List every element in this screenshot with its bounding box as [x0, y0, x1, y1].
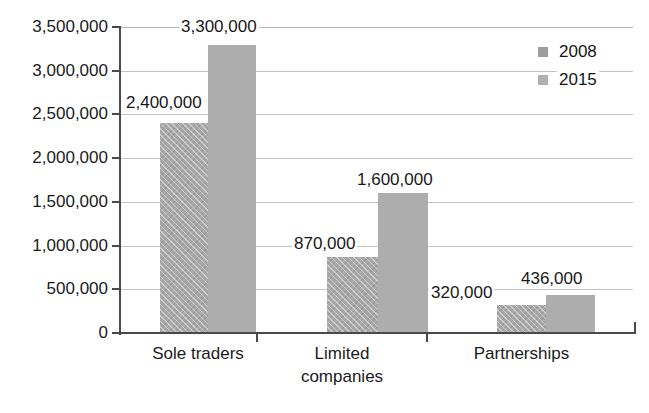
y-axis-label-2500000: 2,500,000 — [0, 104, 108, 124]
bar-sole-traders-2008 — [160, 123, 208, 333]
bar-partnerships-2015 — [546, 295, 595, 333]
legend-label-2015: 2015 — [557, 70, 599, 90]
y-axis-label-1500000: 1,500,000 — [0, 192, 108, 212]
x-axis-line — [119, 332, 636, 334]
y-axis-label-2000000: 2,000,000 — [0, 148, 108, 168]
bar-sole-traders-2015 — [208, 45, 256, 334]
y-tick-1500000 — [112, 201, 121, 203]
data-label-limited-companies-2008: 870,000 — [292, 234, 357, 254]
y-tick-0 — [112, 332, 121, 334]
y-tick-3500000 — [112, 26, 121, 28]
x-axis-category-sole-traders: Sole traders — [133, 342, 263, 365]
data-label-sole-traders-2015: 3,300,000 — [179, 17, 259, 37]
y-tick-2000000 — [112, 157, 121, 159]
legend-item-2015[interactable]: 2015 — [538, 66, 599, 94]
x-axis-category-limited-companies: Limited companies — [277, 342, 407, 388]
y-tick-3000000 — [112, 70, 121, 72]
y-tick-2500000 — [112, 113, 121, 115]
y-tick-500000 — [112, 288, 121, 290]
y-axis-label-3500000: 3,500,000 — [0, 17, 108, 37]
y-axis-label-3000000: 3,000,000 — [0, 61, 108, 81]
y-tick-1000000 — [112, 245, 121, 247]
legend-item-2008[interactable]: 2008 — [538, 38, 599, 66]
data-label-limited-companies-2015: 1,600,000 — [355, 170, 435, 190]
legend-swatch-2008-icon — [538, 47, 548, 57]
x-tick-2 — [426, 333, 428, 342]
legend: 2008 2015 — [538, 38, 599, 94]
legend-label-2008: 2008 — [557, 42, 599, 62]
y-axis-label-1000000: 1,000,000 — [0, 236, 108, 256]
bar-partnerships-2008 — [497, 305, 546, 333]
x-tick-1 — [256, 333, 258, 342]
legend-swatch-2015-icon — [538, 75, 548, 85]
bar-chart: 3,500,000 3,000,000 2,500,000 2,000,000 … — [0, 0, 649, 413]
bar-limited-companies-2015 — [378, 193, 428, 333]
data-label-partnerships-2008: 320,000 — [429, 283, 494, 303]
gridline-2500000 — [120, 114, 633, 115]
bar-limited-companies-2008 — [327, 257, 378, 333]
data-label-sole-traders-2008: 2,400,000 — [124, 93, 204, 113]
x-axis-category-partnerships: Partnerships — [449, 342, 594, 365]
data-label-partnerships-2015: 436,000 — [519, 269, 584, 289]
x-axis-end-tick — [634, 322, 636, 333]
y-axis-label-0: 0 — [0, 323, 108, 343]
y-axis-label-500000: 500,000 — [0, 279, 108, 299]
